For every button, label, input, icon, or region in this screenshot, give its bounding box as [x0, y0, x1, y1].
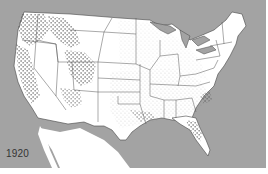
us-map — [0, 0, 266, 168]
year-label: 1920 — [6, 148, 29, 159]
dense-region-florida — [186, 120, 202, 142]
map-frame: 1920 — [0, 0, 266, 168]
